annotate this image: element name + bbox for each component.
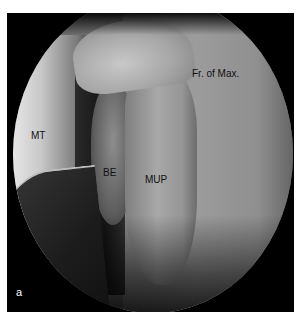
- endoscopic-figure-panel: Fr. of Max. MT BE MUP a: [7, 13, 294, 312]
- label-middle-turbinate: MT: [31, 130, 45, 141]
- label-uncinate-process: MUP: [145, 174, 167, 185]
- label-frontal-process: Fr. of Max.: [192, 68, 239, 79]
- instrument-blade: [13, 165, 111, 312]
- top-vignette: [13, 13, 293, 35]
- label-bulla-ethmoidalis: BE: [103, 167, 116, 178]
- panel-label: a: [16, 286, 22, 298]
- endoscopic-view: [13, 13, 293, 312]
